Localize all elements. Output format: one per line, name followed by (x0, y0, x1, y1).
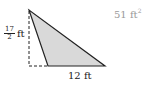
base-label: 12 ft (68, 70, 92, 81)
height-fraction: 17 2 (4, 26, 15, 41)
area-value: 51 ft (114, 9, 138, 20)
triangle-shape (29, 10, 105, 66)
area-answer: 51 ft2 (114, 8, 141, 20)
height-label: 17 2 ft (4, 26, 25, 41)
area-exponent: 2 (138, 7, 142, 14)
height-denominator: 2 (7, 34, 11, 41)
height-unit: ft (17, 28, 25, 39)
